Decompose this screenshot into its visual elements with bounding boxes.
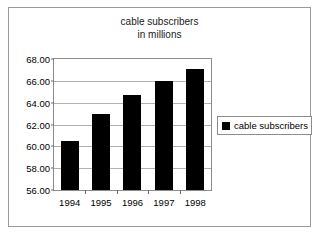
legend-item-label: cable subscribers [234, 120, 308, 131]
x-axis-tick-mark [117, 190, 118, 194]
chart-legend: cable subscribers [217, 116, 312, 135]
bar [92, 114, 110, 190]
plot-area: 68.0066.0064.0062.0060.0058.0056.00 1994… [53, 58, 212, 191]
chart-title-line-1: cable subscribers [9, 15, 310, 28]
x-axis-tick-label: 1994 [59, 197, 80, 208]
chart-frame: cable subscribers in millions 68.0066.00… [8, 7, 311, 227]
bar-series [54, 59, 211, 190]
bar-slot [85, 59, 116, 190]
bar [155, 81, 173, 190]
bar-slot [148, 59, 179, 190]
x-axis-tick-label: 1996 [122, 197, 143, 208]
legend-swatch-icon [222, 122, 230, 130]
bar [61, 141, 79, 190]
chart-title-line-2: in millions [9, 28, 310, 41]
bar-slot [117, 59, 148, 190]
bar-slot [54, 59, 85, 190]
y-axis-tick-label: 64.00 [26, 97, 50, 108]
bar [123, 95, 141, 190]
x-axis-tick-mark [148, 190, 149, 194]
x-axis-tick-mark [180, 190, 181, 194]
y-axis-tick-label: 58.00 [26, 163, 50, 174]
bar [186, 69, 204, 190]
x-axis-tick-label: 1998 [185, 197, 206, 208]
y-axis-tick-label: 60.00 [26, 141, 50, 152]
x-axis-tick-label: 1997 [153, 197, 174, 208]
y-axis-tick-label: 62.00 [26, 119, 50, 130]
x-axis-tick-label: 1995 [91, 197, 112, 208]
y-axis-tick-label: 68.00 [26, 54, 50, 65]
chart-title: cable subscribers in millions [9, 15, 310, 41]
bar-slot [180, 59, 211, 190]
x-axis-tick-mark [85, 190, 86, 194]
y-axis-tick-label: 66.00 [26, 75, 50, 86]
y-axis-tick-label: 56.00 [26, 185, 50, 196]
